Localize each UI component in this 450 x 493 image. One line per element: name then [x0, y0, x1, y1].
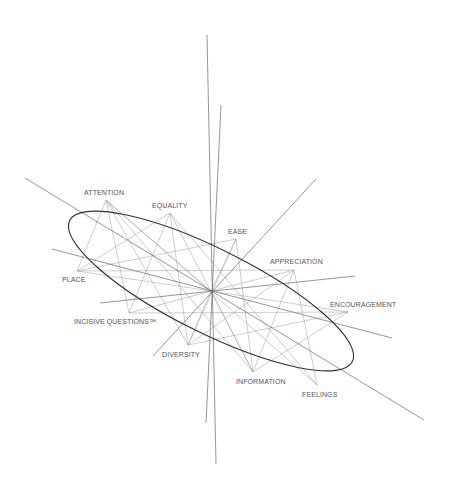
label-attention: ATTENTION: [84, 189, 124, 196]
label-feelings: FEELINGS: [302, 391, 338, 398]
background: [0, 0, 450, 493]
label-ease: EASE: [228, 228, 247, 235]
label-equality: EQUALITY: [152, 202, 188, 210]
label-information: INFORMATION: [236, 378, 286, 385]
label-appreciation: APPRECIATION: [270, 258, 323, 265]
value-diagram: ATTENTIONEQUALITYEASEAPPRECIATIONENCOURA…: [0, 0, 450, 493]
label-incisive: INCISIVE QUESTIONS™: [74, 318, 156, 326]
label-encouragement: ENCOURAGEMENT: [330, 301, 397, 308]
label-diversity: DIVERSITY: [162, 351, 200, 358]
label-place: PLACE: [62, 276, 86, 283]
